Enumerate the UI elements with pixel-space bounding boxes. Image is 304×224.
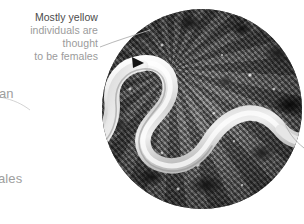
worm-body [102, 63, 302, 171]
edge-fragment-lower: ales [0, 171, 22, 186]
figure-canvas: Mostly yellow individuals are thought to… [0, 0, 304, 224]
callout-line-2: individuals are thought [0, 24, 101, 50]
edge-fragment-upper: an [0, 86, 14, 101]
circular-photo [102, 9, 302, 209]
callout-line-1: Mostly yellow [0, 11, 101, 24]
organism-overlay [102, 9, 302, 209]
callout-annotation: Mostly yellow individuals are thought to… [0, 11, 101, 63]
callout-line-3: to be females [0, 50, 101, 63]
